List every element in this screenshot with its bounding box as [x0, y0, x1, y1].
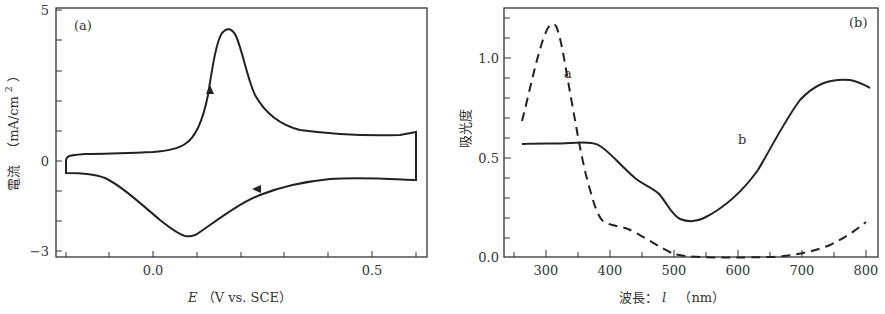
panel-b-xlabel-cjk: 波長： [619, 290, 658, 305]
panel-a-arrow-up-icon [206, 85, 214, 94]
panel-b-ytick-0.5: 0.5 [478, 151, 499, 166]
panel-b-y-ticks [504, 18, 511, 238]
panel-a-xtick-0.0: 0.0 [143, 263, 164, 278]
panel-a-ylabel-close: ） [6, 69, 21, 82]
panel-a-cv-curve [66, 29, 416, 236]
panel-b-curve-a [522, 24, 866, 258]
panel-a-arrow-left-icon [252, 185, 261, 193]
panel-b-curve-a-label: a [564, 66, 572, 81]
panel-b-xlabel-unit: （nm） [678, 290, 725, 305]
panel-b: 0.0 0.5 1.0 300 400 500 600 700 800 波長： … [458, 8, 878, 305]
panel-a-y-axis-title: 電流 （mA/cm 2 ） [0, 69, 21, 191]
panel-b-x-axis-title: 波長： l （nm） [619, 290, 725, 305]
panel-b-label: (b) [849, 15, 867, 30]
panel-a-ylabel-unit: （mA/cm [6, 96, 21, 155]
figure: 5 0 −3 0.0 0.5 E （V vs. SCE） 電流 （mA/cm 2… [0, 0, 885, 314]
panel-a: 5 0 −3 0.0 0.5 E （V vs. SCE） 電流 （mA/cm 2… [0, 3, 427, 305]
panel-b-xtick-700: 700 [790, 263, 815, 278]
panel-b-xlabel-var: l [662, 290, 666, 305]
panel-b-frame [504, 8, 878, 257]
panel-b-ytick-0.0: 0.0 [478, 250, 499, 265]
panel-a-y-ticks [56, 10, 62, 251]
panel-a-ytick-5: 5 [41, 3, 49, 18]
panel-a-frame [56, 8, 427, 257]
panel-a-label: (a) [74, 18, 92, 33]
panel-a-ylabel-cjk: 電流 [6, 165, 21, 191]
panel-b-xtick-300: 300 [534, 263, 559, 278]
panel-b-curve-b [522, 80, 870, 222]
panel-b-ytick-1.0: 1.0 [478, 51, 499, 66]
panel-b-xtick-600: 600 [726, 263, 751, 278]
panel-b-curve-b-label: b [738, 132, 746, 147]
panel-b-xtick-800: 800 [854, 263, 879, 278]
panel-a-x-axis-title: E （V vs. SCE） [187, 290, 292, 305]
panel-a-ytick-0: 0 [41, 154, 49, 169]
panel-a-xlabel-unit: （V vs. SCE） [202, 290, 292, 305]
panel-b-xtick-400: 400 [598, 263, 623, 278]
panel-a-xtick-0.5: 0.5 [362, 263, 383, 278]
panel-a-ytick-neg3: −3 [30, 244, 49, 259]
panel-a-ylabel-sup: 2 [4, 86, 14, 92]
panel-b-xtick-500: 500 [662, 263, 687, 278]
panel-a-xlabel-var: E [187, 290, 198, 305]
panel-b-y-axis-title: 吸光度 [458, 109, 473, 148]
panel-a-x-ticks [66, 251, 416, 257]
